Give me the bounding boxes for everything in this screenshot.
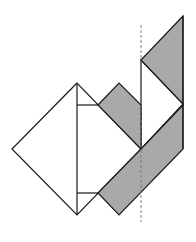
diagram-canvas bbox=[0, 0, 196, 242]
